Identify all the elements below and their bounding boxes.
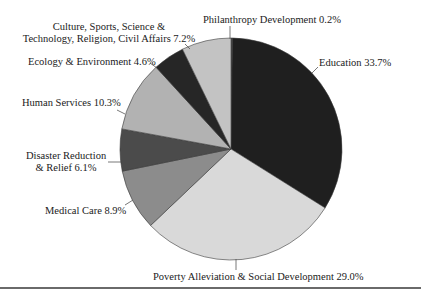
label-culture-line1: Culture, Sports, Science &	[22, 21, 196, 33]
bottom-rule	[0, 287, 421, 289]
label-medical: Medical Care 8.9%	[45, 205, 126, 217]
label-human: Human Services 10.3%	[22, 97, 121, 109]
label-culture: Culture, Sports, Science & Technology, R…	[22, 21, 196, 45]
label-culture-line2: Technology, Religion, Civil Affairs 7.2%	[22, 33, 196, 45]
label-disaster: Disaster Reduction & Relief 6.1%	[26, 150, 106, 174]
pie-slices	[120, 38, 342, 260]
label-disaster-line2: & Relief 6.1%	[26, 162, 106, 174]
label-poverty: Poverty Alleviation & Social Development…	[153, 271, 364, 283]
leader-human	[117, 110, 125, 114]
leader-education	[312, 67, 318, 73]
label-philanthropy: Philanthropy Development 0.2%	[203, 14, 341, 26]
label-disaster-line1: Disaster Reduction	[26, 150, 106, 162]
label-education: Education 33.7%	[319, 57, 391, 69]
label-ecology: Ecology & Environment 4.6%	[28, 56, 156, 68]
